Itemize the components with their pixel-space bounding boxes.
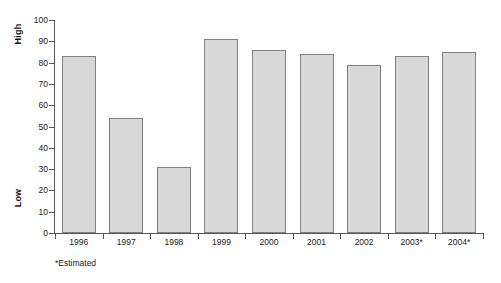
y-axis-tick-label: 100 — [22, 16, 48, 24]
bar — [395, 56, 429, 233]
plot-area — [55, 20, 483, 233]
bar — [347, 65, 381, 233]
y-axis-tick-label: 50 — [22, 123, 48, 131]
bar — [109, 118, 143, 233]
x-axis-tick-label: 2001 — [293, 236, 341, 248]
y-axis-tick-label: 80 — [22, 59, 48, 67]
bar — [62, 56, 96, 233]
bar-chart: High Low 0102030405060708090100 19961997… — [0, 0, 501, 283]
x-axis-tick-label: 2003* — [388, 236, 436, 248]
x-axis-tick-labels: 19961997199819992000200120022003*2004* — [55, 236, 483, 250]
x-axis-tick-label: 1998 — [150, 236, 198, 248]
x-axis-tick-label: 1997 — [103, 236, 151, 248]
y-axis-tick-label: 70 — [22, 80, 48, 88]
x-axis-tick-label: 2004* — [435, 236, 483, 248]
x-axis-tick-label: 1996 — [55, 236, 103, 248]
x-axis-line — [54, 233, 483, 234]
x-axis-tick-mark — [483, 233, 484, 239]
bar — [300, 54, 334, 233]
x-axis-tick-label: 1999 — [198, 236, 246, 248]
y-axis-tick-label: 0 — [22, 229, 48, 237]
x-axis-tick-label: 2000 — [245, 236, 293, 248]
y-axis-tick-label: 60 — [22, 101, 48, 109]
bar — [204, 39, 238, 233]
y-axis-tick-label: 30 — [22, 165, 48, 173]
bar-series — [55, 20, 483, 233]
y-axis-tick-label: 90 — [22, 37, 48, 45]
y-axis-tick-label: 40 — [22, 144, 48, 152]
y-axis-tick-label: 10 — [22, 208, 48, 216]
footnote: *Estimated — [55, 258, 96, 268]
bar — [252, 50, 286, 233]
x-axis-tick-label: 2002 — [340, 236, 388, 248]
y-axis-tick-label: 20 — [22, 186, 48, 194]
bar — [157, 167, 191, 233]
y-axis-tick-labels: 0102030405060708090100 — [22, 0, 48, 283]
bar — [442, 52, 476, 233]
